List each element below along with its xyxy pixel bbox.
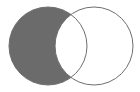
venn-diagram [0, 0, 140, 92]
